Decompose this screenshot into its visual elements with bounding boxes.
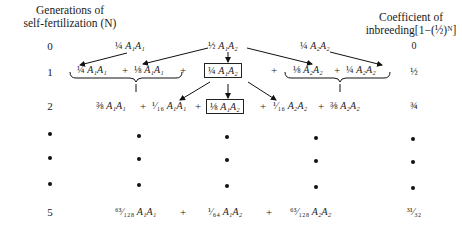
plus-sign: +: [122, 64, 128, 76]
ellipsis-dot: [314, 136, 318, 140]
ellipsis-dot: [314, 185, 318, 189]
term-coef: ¹⁄₁₆: [273, 100, 285, 111]
ellipsis-dot: [411, 186, 415, 190]
plus-sign: +: [180, 64, 186, 76]
generation-label: 2: [40, 100, 60, 112]
term-coef: ¼: [115, 40, 123, 51]
ellipsis-dot: [411, 160, 415, 164]
ellipsis-dot: [48, 132, 52, 136]
plus-sign: +: [195, 100, 201, 112]
term-genotype: A₁A₁: [167, 100, 187, 111]
term-coef: ⅛: [210, 101, 218, 112]
inbreeding-coefficient: ¾: [399, 100, 429, 111]
genotype-term: ⁶³⁄₁₂₈ A₁A₁: [115, 206, 156, 217]
plus-sign: +: [180, 206, 186, 218]
heterozygote-box: ⅛ A₁A₂: [206, 99, 244, 114]
genotype-term: ¼ A₁A₁: [77, 64, 107, 75]
genotype-term: ⅜ A₂A₂: [330, 100, 360, 111]
plus-sign: +: [266, 206, 272, 218]
genotype-term: ¹⁄₆₄ A₁A₂: [208, 206, 242, 217]
inbreeding-coefficient: ³¹⁄₃₂: [399, 206, 429, 217]
term-coef: ¼: [346, 64, 354, 75]
generation-label: 5: [40, 206, 60, 218]
plus-sign: +: [318, 100, 324, 112]
term-coef: ⁶³⁄₁₂₈: [115, 206, 134, 217]
generation-label: 1: [40, 66, 60, 78]
ellipsis-dot: [225, 158, 229, 162]
term-coef: ¹⁄₆₄: [208, 206, 220, 217]
term-genotype: A₁A₂: [218, 40, 238, 51]
plus-sign: +: [260, 100, 266, 112]
genotype-term: ⁶³⁄₁₂₈ A₂A₂: [290, 206, 331, 217]
ellipsis-dot: [137, 183, 141, 187]
term-genotype: A₁A₂: [223, 206, 243, 217]
ellipsis-dot: [137, 157, 141, 161]
term-genotype: A₂A₂: [312, 206, 332, 217]
genotype-term: ⅛ A₂A₂: [293, 64, 323, 75]
term-coef: ⅛: [293, 64, 301, 75]
genotype-term: ½ A₁A₂: [208, 40, 238, 51]
plus-sign: +: [140, 100, 146, 112]
genotype-term: ¹⁄₁₆ A₁A₁: [152, 100, 186, 111]
term-genotype: A₁A₁: [87, 64, 107, 75]
term-genotype: A₁A₁: [125, 40, 145, 51]
term-coef: ¼: [77, 64, 85, 75]
term-genotype: A₁A₂: [220, 101, 240, 112]
term-genotype: A₁A₁: [144, 64, 164, 75]
term-genotype: A₂A₂: [310, 40, 330, 51]
ellipsis-dot: [48, 156, 52, 160]
term-genotype: A₂A₂: [288, 100, 308, 111]
term-coef: ⅜: [330, 100, 338, 111]
ellipsis-dot: [314, 159, 318, 163]
term-coef: ¼: [300, 40, 308, 51]
inheritance-arrows: [0, 0, 462, 232]
ellipsis-dot: [48, 182, 52, 186]
ellipsis-dot: [225, 184, 229, 188]
heterozygote-box: ¼ A₁A₂: [204, 63, 242, 78]
generation-label: 0: [40, 40, 60, 52]
genotype-term: ¼ A₂A₂: [300, 40, 330, 51]
term-coef: ¼: [208, 65, 216, 76]
term-genotype: A₁A₁: [106, 100, 126, 111]
ellipsis-dot: [137, 134, 141, 138]
term-coef: ⅜: [96, 100, 104, 111]
plus-sign: +: [271, 64, 277, 76]
term-genotype: A₁A₁: [137, 206, 157, 217]
term-coef: ⁶³⁄₁₂₈: [290, 206, 309, 217]
term-genotype: A₂A₂: [303, 64, 323, 75]
plus-sign: +: [334, 64, 340, 76]
ellipsis-dot: [411, 137, 415, 141]
term-genotype: A₂A₂: [356, 64, 376, 75]
genotype-term: ¼ A₁A₁: [115, 40, 145, 51]
term-coef: ¹⁄₁₆: [152, 100, 164, 111]
genotype-term: ¹⁄₁₆ A₂A₂: [273, 100, 307, 111]
inbreeding-coefficient: 0: [399, 40, 429, 51]
genotype-term: ⅛ A₁A₁: [134, 64, 164, 75]
term-coef: ½: [208, 40, 216, 51]
genotype-term: ¼ A₂A₂: [346, 64, 376, 75]
term-coef: ⅛: [134, 64, 142, 75]
term-genotype: A₂A₂: [340, 100, 360, 111]
ellipsis-dot: [225, 135, 229, 139]
genotype-term: ⅜ A₁A₁: [96, 100, 126, 111]
inbreeding-coefficient: ½: [399, 66, 429, 77]
term-genotype: A₁A₂: [218, 65, 238, 76]
